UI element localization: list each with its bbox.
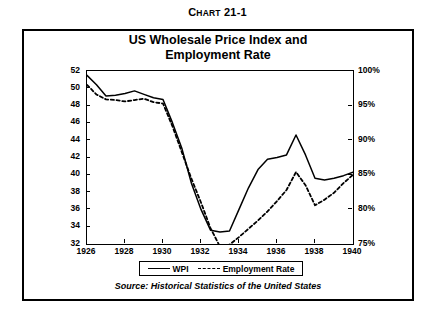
- series-line-wpi: [87, 75, 353, 232]
- y-axis-left-tickmark: [86, 191, 90, 192]
- chart-number-smallcaps: HART: [196, 8, 220, 18]
- y-axis-left-tickmark: [86, 105, 90, 106]
- y-axis-right-tickmark: [348, 174, 352, 175]
- chart-number-value: 21-1: [221, 6, 247, 18]
- x-axis-tick-1934: 1934: [218, 247, 258, 256]
- x-axis-tickmark: [200, 239, 201, 243]
- x-axis-tick-1932: 1932: [180, 247, 220, 256]
- page-title: US Wholesale Price Index and Employment …: [22, 33, 414, 63]
- y-axis-right-tickmark: [348, 208, 352, 209]
- x-axis-tick-1930: 1930: [142, 247, 182, 256]
- chart-legend: WPI Employment Rate: [139, 261, 303, 276]
- legend-label-wpi: WPI: [173, 264, 189, 274]
- y-axis-left-tick-48: 48: [60, 100, 80, 109]
- y-axis-left-tick-34: 34: [60, 221, 80, 230]
- x-axis-tickmark: [162, 239, 163, 243]
- y-axis-left-tick-44: 44: [60, 135, 80, 144]
- solid-line-swatch-icon: [148, 268, 170, 269]
- x-axis-tickmark: [276, 239, 277, 243]
- source-note: Source: Historical Statistics of the Uni…: [22, 281, 414, 291]
- series-line-employment-rate: [87, 85, 353, 244]
- y-axis-left-tickmark: [86, 157, 90, 158]
- legend-label-employment-rate: Employment Rate: [223, 264, 295, 274]
- y-axis-left-tick-38: 38: [60, 187, 80, 196]
- x-axis-tickmark: [238, 239, 239, 243]
- plot-lines: [87, 71, 353, 244]
- chart-title-line2: Employment Rate: [22, 48, 414, 63]
- y-axis-left-tickmark: [86, 208, 90, 209]
- dashed-line-swatch-icon: [198, 268, 220, 269]
- x-axis-tick-1926: 1926: [66, 247, 106, 256]
- x-axis-tickmark: [314, 239, 315, 243]
- y-axis-right-tick-100pct: 100%: [358, 66, 388, 75]
- y-axis-left-tickmark: [86, 139, 90, 140]
- x-axis-tick-1928: 1928: [104, 247, 144, 256]
- y-axis-right-tick-80pct: 80%: [358, 204, 388, 213]
- y-axis-right-tickmark: [348, 105, 352, 106]
- y-axis-left-tickmark: [86, 122, 90, 123]
- y-axis-right-tick-90pct: 90%: [358, 135, 388, 144]
- x-axis-tick-1936: 1936: [256, 247, 296, 256]
- x-axis-tickmark: [124, 239, 125, 243]
- y-axis-right-tickmark: [348, 139, 352, 140]
- chart-figure: CHART 21-1 US Wholesale Price Index and …: [0, 0, 435, 321]
- chart-number-caption: CHART 21-1: [0, 6, 435, 18]
- legend-item-wpi: WPI: [148, 264, 189, 274]
- y-axis-left-tick-46: 46: [60, 117, 80, 126]
- y-axis-left-tick-42: 42: [60, 152, 80, 161]
- y-axis-left-tick-36: 36: [60, 204, 80, 213]
- x-axis-tick-1938: 1938: [294, 247, 334, 256]
- y-axis-right-tick-95pct: 95%: [358, 100, 388, 109]
- x-axis-tick-1940: 1940: [332, 247, 372, 256]
- y-axis-left-tick-50: 50: [60, 83, 80, 92]
- y-axis-left-tick-52: 52: [60, 66, 80, 75]
- plot-area: [86, 70, 354, 245]
- y-axis-left-tickmark: [86, 174, 90, 175]
- y-axis-left-tickmark: [86, 226, 90, 227]
- y-axis-right-tick-85pct: 85%: [358, 169, 388, 178]
- y-axis-left-tick-40: 40: [60, 169, 80, 178]
- y-axis-left-tickmark: [86, 87, 90, 88]
- chart-title-line1: US Wholesale Price Index and: [22, 33, 414, 48]
- legend-item-employment-rate: Employment Rate: [198, 264, 295, 274]
